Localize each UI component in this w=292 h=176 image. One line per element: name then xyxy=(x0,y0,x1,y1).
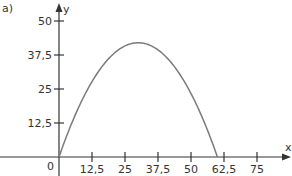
y-tick-label: 25 xyxy=(38,83,52,96)
y-axis-label: y xyxy=(63,3,70,16)
x-axis-label: x xyxy=(285,141,292,154)
x-tick-label: 12,5 xyxy=(80,163,105,176)
x-tick-label: 75 xyxy=(250,163,264,176)
x-axis-arrow-icon xyxy=(282,154,291,161)
y-tick-label: 37,5 xyxy=(28,49,53,62)
y-tick-label: 12,5 xyxy=(28,117,53,130)
parabola-chart: a) x y 0 12,52537,55062,575 12,52537,550 xyxy=(0,0,292,176)
panel-label: a) xyxy=(2,2,13,15)
x-tick-label: 62,5 xyxy=(212,163,237,176)
x-tick-label: 37,5 xyxy=(146,163,171,176)
x-tick-label: 50 xyxy=(184,163,198,176)
y-tick-label: 50 xyxy=(38,15,52,28)
x-tick-label: 25 xyxy=(118,163,132,176)
origin-label: 0 xyxy=(47,160,54,173)
y-axis-arrow-icon xyxy=(56,3,63,12)
x-ticks: 12,52537,55062,575 xyxy=(80,152,264,176)
parabola-curve xyxy=(59,43,217,157)
